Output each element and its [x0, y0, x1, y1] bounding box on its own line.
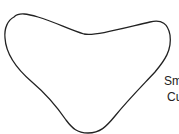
diagram-canvas — [0, 0, 179, 134]
closed-curve-outline — [5, 14, 170, 133]
smooth-curve-shape — [0, 0, 179, 134]
curve-label-line-1: Sm — [164, 74, 179, 88]
curve-label-line-2: Cu — [167, 90, 179, 104]
